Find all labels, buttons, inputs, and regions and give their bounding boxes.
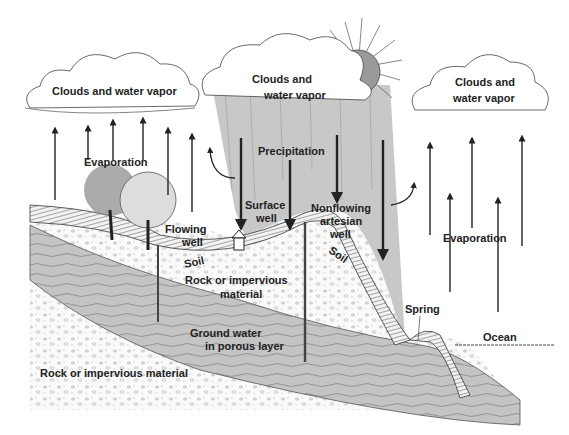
label-rock-upper-1: Rock or impervious (185, 274, 288, 286)
label-nonflowing-1: Nonflowing (311, 202, 371, 214)
label-nonflowing-2: artesian (320, 215, 362, 227)
label-flowing-well-2: well (181, 236, 203, 248)
label-groundwater-2: in porous layer (205, 340, 285, 352)
label-evaporation-right: Evaporation (443, 232, 507, 244)
label-surface-well-2: well (255, 212, 277, 224)
label-cloud-right-2: water vapor (452, 92, 515, 104)
label-spring: Spring (405, 303, 440, 315)
label-rock-lower: Rock or impervious material (40, 367, 188, 379)
label-flowing-well-1: Flowing (165, 223, 207, 235)
label-surface-well-1: Surface (245, 199, 285, 211)
label-nonflowing-3: well (329, 228, 351, 240)
label-groundwater-1: Ground water (190, 327, 262, 339)
label-cloud-center-2: water vapor (263, 89, 326, 101)
label-rock-upper-2: material (220, 288, 262, 300)
label-ocean: Ocean (483, 331, 517, 343)
label-cloud-right-1: Clouds and (455, 76, 515, 88)
label-cloud-center-1: Clouds and (252, 73, 312, 85)
cloud-left (25, 53, 199, 113)
label-evaporation-left: Evaporation (84, 156, 148, 168)
label-cloud-left: Clouds and water vapor (52, 85, 177, 97)
water-cycle-diagram: Clouds and water vapor Clouds and water … (0, 0, 569, 435)
label-precipitation: Precipitation (258, 145, 325, 157)
